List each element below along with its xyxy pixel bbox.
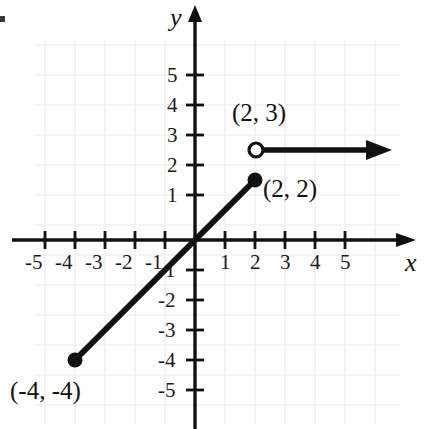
y-tick-label-minus5: -5 bbox=[158, 380, 176, 401]
y-tick-label-1: 1 bbox=[167, 185, 178, 206]
x-tick-label-minus2: -2 bbox=[115, 252, 133, 273]
y-axis-label: y bbox=[170, 5, 182, 31]
x-tick-label-2: 2 bbox=[250, 252, 261, 273]
point-label-minus4-minus4: (-4, -4) bbox=[10, 378, 81, 403]
y-tick-label-4: 4 bbox=[167, 95, 178, 116]
x-tick-label-minus3: -3 bbox=[85, 252, 103, 273]
coordinate-plane bbox=[0, 0, 431, 429]
y-tick-label-minus3: -3 bbox=[158, 320, 176, 341]
y-tick-label-minus1: -1 bbox=[158, 260, 176, 281]
x-tick-label-minus4: -4 bbox=[55, 252, 73, 273]
x-tick-label-4: 4 bbox=[310, 252, 321, 273]
y-tick-label-minus2: -2 bbox=[158, 290, 176, 311]
point-label-2-2: (2, 2) bbox=[263, 176, 317, 201]
x-tick-label-1: 1 bbox=[220, 252, 231, 273]
x-axis-label: x bbox=[405, 250, 417, 276]
ray-y-equals-3 bbox=[258, 140, 392, 160]
x-tick-label-5: 5 bbox=[340, 252, 351, 273]
point-label-2-3: (2, 3) bbox=[232, 100, 286, 125]
closed-point-minus4-minus4 bbox=[68, 353, 83, 368]
closed-point-2-2 bbox=[248, 173, 263, 188]
open-point-2-3 bbox=[249, 143, 263, 157]
x-tick-label-minus5: -5 bbox=[25, 252, 43, 273]
y-tick-label-3: 3 bbox=[167, 125, 178, 146]
x-tick-label-3: 3 bbox=[280, 252, 291, 273]
y-tick-label-minus4: -4 bbox=[158, 350, 176, 371]
x-axis bbox=[12, 233, 416, 247]
graph-figure: -5 -4 -3 -2 -1 1 2 3 4 5 5 4 3 2 1 -1 -2… bbox=[0, 0, 431, 429]
y-axis bbox=[188, 5, 202, 429]
y-tick-label-2: 2 bbox=[167, 155, 178, 176]
y-tick-label-5: 5 bbox=[167, 65, 178, 86]
